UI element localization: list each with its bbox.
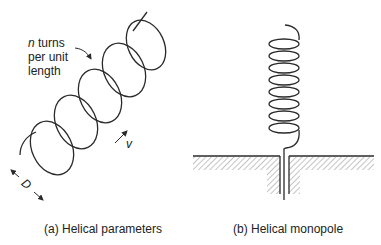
n-symbol: n <box>28 36 35 50</box>
caption-panel-b: (b) Helical monopole <box>233 222 343 236</box>
turns-annotation: n turns <box>28 36 65 50</box>
turns-annotation-line3: length <box>28 64 61 78</box>
velocity-label: v <box>126 137 132 151</box>
turns-annotation-line2: per unit <box>28 50 68 64</box>
turns-pointer-arrow <box>75 48 91 59</box>
diameter-arrow-right <box>34 192 43 200</box>
caption-panel-a: (a) Helical parameters <box>44 222 162 236</box>
diameter-arrow-left <box>11 170 19 177</box>
